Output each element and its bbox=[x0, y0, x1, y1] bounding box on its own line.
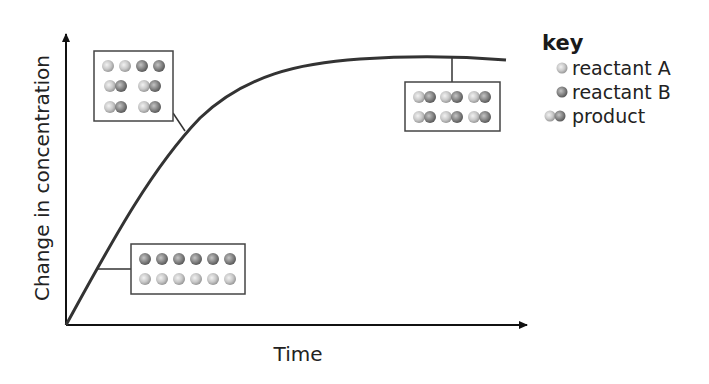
inset-late-stage bbox=[405, 82, 500, 131]
x-axis-label: Time bbox=[274, 342, 323, 366]
product-icon bbox=[542, 104, 572, 128]
reactant-a-icon bbox=[542, 56, 572, 80]
key-label: reactant A bbox=[572, 56, 671, 80]
inset-early-stage bbox=[131, 244, 245, 294]
y-axis-label: Change in concentration bbox=[30, 55, 54, 301]
inset-mid-stage bbox=[94, 51, 173, 121]
key-item-product: product bbox=[542, 104, 671, 128]
key-title: key bbox=[542, 30, 671, 56]
reactant-b-icon bbox=[542, 80, 572, 104]
key-item-reactant-b: reactant B bbox=[542, 80, 671, 104]
key-item-reactant-a: reactant A bbox=[542, 56, 671, 80]
key-label: product bbox=[572, 104, 645, 128]
key-label: reactant B bbox=[572, 80, 671, 104]
key-legend: key reactant A reactant B pro bbox=[542, 30, 671, 128]
